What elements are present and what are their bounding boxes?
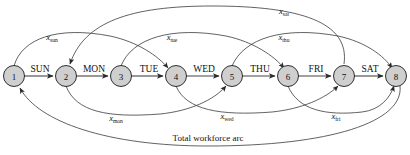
node-8[interactable]: 8 (386, 66, 407, 87)
total-workforce-arc-caption: Total workforce arc (173, 133, 244, 143)
var-label-x-sun: xsun (45, 32, 58, 43)
node-1-label: 1 (12, 72, 17, 82)
var-label-x-sat: xsat (278, 6, 289, 17)
node-5[interactable]: 5 (222, 66, 243, 87)
node-8-label: 8 (394, 72, 399, 82)
var-x-wed-sub: wed (224, 116, 234, 122)
upper-arcs-group (14, 6, 392, 68)
node-5-label: 5 (230, 72, 235, 82)
var-x-mon-sub: mon (113, 118, 123, 124)
var-x-sat-sub: sat (283, 11, 290, 17)
var-x-thu-sub: thu (282, 37, 289, 43)
lower-arc-x-mon (66, 86, 226, 115)
upper-arc-x-thu (232, 33, 392, 68)
var-x-fri-sub: fri (335, 116, 341, 122)
day-label-thu: THU (250, 64, 270, 74)
var-x-tue-sub: tue (170, 37, 177, 43)
node-2-label: 2 (64, 72, 69, 82)
upper-arc-x-sun (14, 33, 168, 68)
node-2[interactable]: 2 (56, 66, 77, 87)
var-x-sun-sub: sun (50, 37, 58, 43)
node-6-label: 6 (286, 72, 291, 82)
day-label-tue: TUE (140, 64, 159, 74)
day-labels-group: SUN MON TUE WED THU FRI SAT (30, 64, 378, 74)
node-4-label: 4 (174, 72, 179, 82)
node-1[interactable]: 1 (4, 66, 25, 87)
day-label-mon: MON (83, 64, 105, 74)
lower-arc-x-fri (288, 86, 394, 113)
day-label-sun: SUN (30, 64, 49, 74)
node-7-label: 7 (342, 72, 347, 82)
upper-arc-x-sat (70, 6, 344, 64)
upper-arc-x-tue (121, 33, 284, 68)
diagram-canvas: 1 2 3 4 5 6 7 (0, 0, 410, 155)
network-diagram: 1 2 3 4 5 6 7 (0, 0, 410, 155)
day-label-sat: SAT (362, 64, 379, 74)
day-label-fri: FRI (309, 64, 324, 74)
day-label-wed: WED (193, 64, 215, 74)
node-7[interactable]: 7 (334, 66, 355, 87)
node-3-label: 3 (119, 72, 124, 82)
node-4[interactable]: 4 (166, 66, 187, 87)
node-3[interactable]: 3 (111, 66, 132, 87)
node-6[interactable]: 6 (278, 66, 299, 87)
